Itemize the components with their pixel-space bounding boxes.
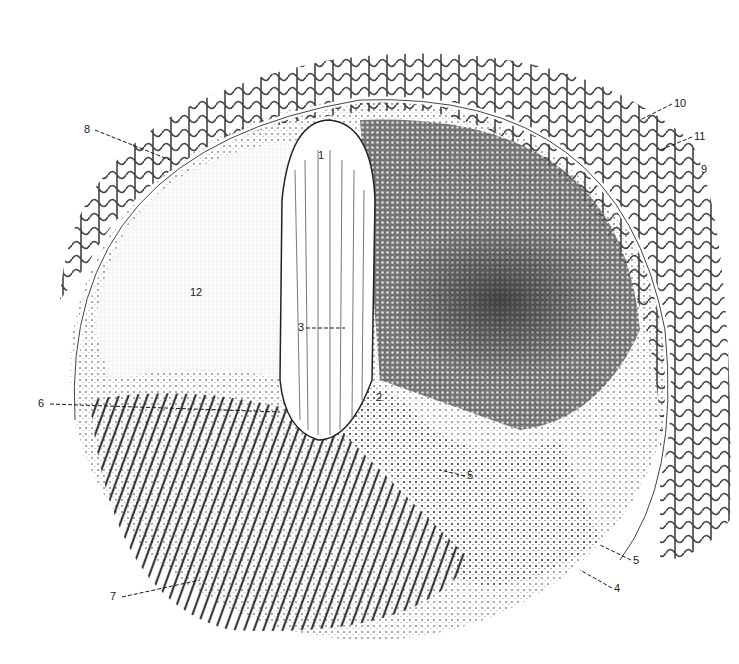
label-2: 2 — [376, 392, 382, 403]
label-9: 9 — [701, 164, 707, 175]
label-5a: 5 — [467, 470, 473, 481]
label-11: 11 — [694, 131, 705, 142]
label-3: 3 — [298, 322, 304, 333]
label-4: 4 — [614, 583, 620, 594]
label-7: 7 — [110, 591, 116, 602]
label-5b: 5 — [633, 555, 639, 566]
label-12: 12 — [190, 287, 202, 298]
label-6: 6 — [38, 398, 44, 409]
anatomical-illustration — [0, 0, 739, 664]
label-8: 8 — [84, 124, 90, 135]
label-1: 1 — [318, 150, 324, 161]
label-10: 10 — [674, 98, 686, 109]
